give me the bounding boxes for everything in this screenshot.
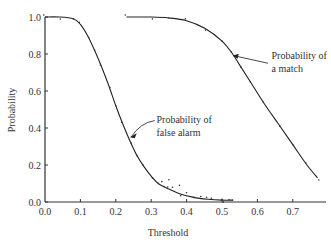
- x-tick-label: 0.4: [180, 206, 193, 217]
- data-point: [168, 179, 170, 181]
- y-axis-title: Probability: [6, 88, 17, 132]
- data-point: [115, 105, 117, 107]
- y-tick-label: 0.2: [29, 160, 42, 171]
- annotation-text: Probability of: [157, 114, 213, 125]
- annotation-text: Probability of: [272, 50, 328, 61]
- annotation-false-alarm: Probability offalse alarm: [130, 114, 212, 139]
- data-point: [240, 66, 242, 68]
- data-point: [228, 199, 230, 201]
- data-point: [231, 51, 233, 53]
- data-point: [88, 37, 90, 39]
- data-point: [43, 14, 45, 16]
- x-tick-label: 0.1: [74, 206, 87, 217]
- annotation-text: false alarm: [157, 127, 201, 138]
- data-point: [152, 177, 154, 179]
- data-point: [205, 29, 207, 31]
- x-tick-label: 0.7: [287, 206, 300, 217]
- data-point: [167, 186, 169, 188]
- data-point: [206, 196, 208, 198]
- data-point: [193, 197, 195, 199]
- data-point: [250, 81, 252, 83]
- data-point: [180, 195, 182, 197]
- data-point: [262, 101, 264, 103]
- data-point: [185, 18, 187, 20]
- y-tick-label: 0.6: [29, 86, 42, 97]
- annotation-match: Probability ofa match: [233, 50, 328, 74]
- data-point: [305, 162, 307, 164]
- x-tick-label: 0.5: [216, 206, 229, 217]
- data-point: [186, 192, 188, 194]
- y-tick-label: 1.0: [29, 12, 42, 23]
- data-point: [221, 198, 223, 200]
- data-point: [168, 17, 170, 19]
- x-tick-label: 0.3: [145, 206, 158, 217]
- x-axis-title: Threshold: [148, 227, 189, 238]
- data-point: [161, 181, 163, 183]
- data-point: [124, 14, 126, 16]
- data-point: [73, 18, 75, 20]
- series-layer: [43, 14, 320, 203]
- data-point: [318, 179, 320, 181]
- data-point: [136, 155, 138, 157]
- x-tick-label: 0.0: [39, 206, 52, 217]
- data-point: [221, 40, 223, 42]
- annotation-text: a match: [272, 63, 303, 74]
- data-point: [292, 144, 294, 146]
- y-tick-label: 0.8: [29, 49, 42, 60]
- data-point: [152, 18, 154, 20]
- data-point: [60, 18, 62, 20]
- data-point: [142, 164, 144, 166]
- x-tick-label: 0.2: [110, 206, 123, 217]
- data-point: [232, 199, 234, 201]
- annotations: Probability offalse alarmProbability ofa…: [130, 50, 328, 138]
- x-tick-label: 0.6: [251, 206, 264, 217]
- chart: 0.00.10.20.30.40.50.60.70.00.20.40.60.81…: [0, 0, 331, 243]
- data-point: [157, 183, 159, 185]
- data-point: [211, 198, 213, 200]
- data-point: [121, 122, 123, 124]
- data-point: [279, 126, 281, 128]
- data-point: [100, 64, 102, 66]
- data-point: [109, 87, 111, 89]
- false-alarm-curve: [45, 17, 233, 200]
- data-point: [222, 201, 224, 203]
- data-point: [172, 186, 174, 188]
- data-point: [130, 142, 132, 144]
- y-tick-label: 0.0: [29, 197, 42, 208]
- data-point: [94, 50, 96, 52]
- data-point: [78, 22, 80, 24]
- data-point: [179, 185, 181, 187]
- y-tick-label: 0.4: [29, 123, 42, 134]
- data-point: [200, 196, 202, 198]
